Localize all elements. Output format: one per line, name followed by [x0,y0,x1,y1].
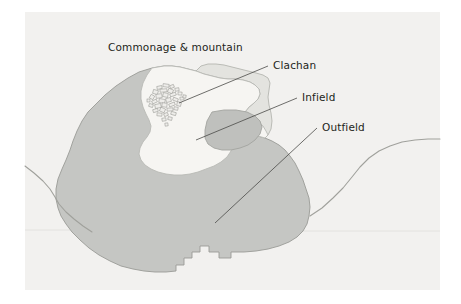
clachan-building [175,88,179,92]
clachan-building [166,97,172,102]
clachan-building [168,117,173,121]
label-infield: Infield [302,91,335,103]
land-use-map-svg: Commonage & mountainClachanInfieldOutfie… [0,0,461,304]
label-commonage-and-mountain: Commonage & mountain [108,41,243,53]
clachan-building [157,113,162,117]
clachan-building [165,123,168,126]
clachan-building [163,84,169,88]
clachan-building [183,95,186,98]
clachan-building [162,103,168,108]
clachan-building [160,89,167,93]
clachan-building [174,107,178,111]
clachan-building [156,94,162,99]
clachan-building [167,108,173,111]
clachan-building [147,99,150,102]
clachan-building [163,93,169,98]
label-clachan: Clachan [273,59,316,71]
clachan-building [178,92,182,95]
label-outfield: Outfield [322,121,365,133]
map-figure: Commonage & mountainClachanInfieldOutfie… [0,0,461,304]
clachan-building [162,118,166,122]
